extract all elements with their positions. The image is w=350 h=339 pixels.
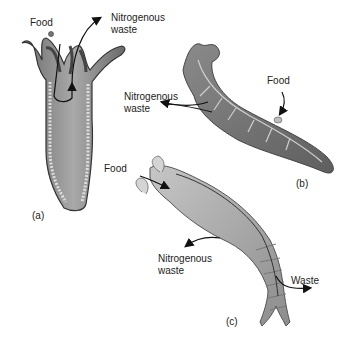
- diagram-canvas: [0, 0, 350, 339]
- panel-a-waste-label-line2: waste: [111, 24, 137, 35]
- flatworm-illustration: [162, 44, 333, 173]
- panel-c-waste-label-line2: waste: [158, 265, 184, 276]
- panel-b-waste-label-line2: waste: [124, 103, 150, 114]
- panel-c-solid-waste-label: Waste: [291, 275, 319, 286]
- panel-a-waste-label-line1: Nitrogenous: [111, 12, 165, 23]
- panel-b-waste-label-line1: Nitrogenous: [124, 91, 178, 102]
- panel-a-caption: (a): [32, 210, 44, 221]
- panel-c-waste-label-line1: Nitrogenous: [158, 253, 212, 264]
- panel-c-food-label: Food: [104, 163, 127, 174]
- panel-b-caption: (b): [296, 178, 308, 189]
- segmented-worm-illustration: [136, 156, 310, 326]
- panel-a-food-label: Food: [30, 17, 53, 28]
- panel-b-food-label: Food: [267, 75, 290, 86]
- hydra-illustration: [22, 18, 125, 211]
- panel-c-caption: (c): [226, 316, 238, 327]
